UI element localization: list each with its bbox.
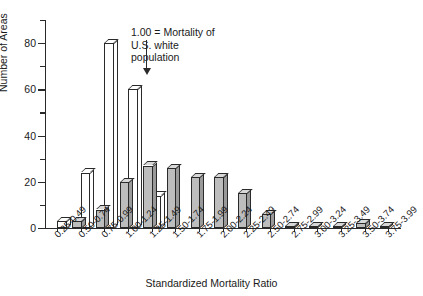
y-tick-label: 0 — [30, 223, 36, 233]
bar-front-face — [104, 43, 114, 228]
annotation-text: 1.00 = Mortality of U.S. white populatio… — [131, 26, 215, 64]
plot-area — [45, 20, 400, 228]
bar-side-face — [200, 173, 204, 228]
bar-side-face — [114, 39, 118, 228]
bar-side-face — [153, 162, 157, 228]
annotation-arrow-shaft-icon — [146, 40, 147, 71]
y-tick-major — [38, 228, 45, 229]
bar-white — [104, 43, 114, 228]
bar-side-face — [176, 164, 180, 228]
y-tick-label: 80 — [24, 38, 36, 48]
y-tick-major — [38, 182, 45, 183]
y-tick-label: 60 — [24, 84, 36, 94]
x-axis-title: Standardized Mortality Ratio — [0, 277, 423, 289]
histogram-chart: Number of Areas 020406080 0.25-0.490.50-… — [0, 0, 423, 296]
annotation-arrow-head-icon — [143, 68, 151, 75]
y-tick-label: 40 — [24, 131, 36, 141]
y-tick-major — [38, 43, 45, 44]
y-tick-major — [38, 89, 45, 90]
y-tick-label: 20 — [24, 177, 36, 187]
bar-side-face — [224, 173, 228, 228]
bar-side-face — [138, 86, 142, 228]
y-tick-major — [38, 136, 45, 137]
y-axis-title: Number of Areas — [0, 13, 9, 92]
